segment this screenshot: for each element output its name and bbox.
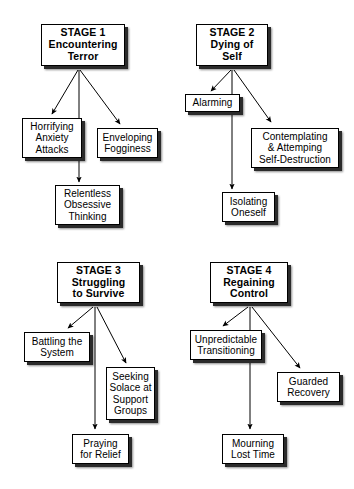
stage-4-connectors xyxy=(223,307,300,429)
stage-2-child-contemplating-attemping-self-destruction[interactable]: Contemplating & Attemping Self-Destructi… xyxy=(251,128,339,168)
stage-3-child-2-label: Praying for Relief xyxy=(73,438,128,460)
stage-3-child-seeking-solace-at-support-groups[interactable]: Seeking Solace at Support Groups xyxy=(106,367,155,420)
stage-1-header-label: STAGE 1 Encountering Terror xyxy=(42,27,124,62)
stage-1-child-horrifying-anxiety-attacks[interactable]: Horrifying Anxiety Attacks xyxy=(22,118,82,158)
stage-4-child-unpredictable-transitioning[interactable]: Unpredictable Transitioning xyxy=(190,330,262,360)
stage-1-header-box[interactable]: STAGE 1 Encountering Terror xyxy=(41,24,125,66)
stage-4-child-0-label: Unpredictable Transitioning xyxy=(191,334,261,356)
stage-4-child-mourning-lost-time[interactable]: Mourning Lost Time xyxy=(222,434,284,464)
stage-3-header-label: STAGE 3 Struggling to Survive xyxy=(58,265,139,300)
stage-2-child-1-label: Contemplating & Attemping Self-Destructi… xyxy=(252,131,338,165)
stage-2-header-box[interactable]: STAGE 2 Dying of Self xyxy=(196,24,268,66)
stage-4-header-box[interactable]: STAGE 4 Regaining Control xyxy=(210,262,288,303)
stage-4-header-label: STAGE 4 Regaining Control xyxy=(211,265,287,300)
stage-2-child-alarming[interactable]: Alarming xyxy=(185,94,240,112)
stage-2-child-2-label: Isolating Oneself xyxy=(223,196,274,218)
stage-4-child-1-label: Guarded Recovery xyxy=(278,376,339,398)
stage-2-header-label: STAGE 2 Dying of Self xyxy=(197,27,267,62)
stage-3-child-praying-for-relief[interactable]: Praying for Relief xyxy=(72,434,129,464)
stage-1-child-enveloping-fogginess[interactable]: Enveloping Fogginess xyxy=(97,128,158,158)
stage-1-child-1-label: Enveloping Fogginess xyxy=(98,132,157,154)
stage-flowchart-diagram: STAGE 1 Encountering Terror Horrifying A… xyxy=(0,0,354,489)
stage-3-child-0-label: Battling the System xyxy=(25,336,89,358)
stage-2-child-0-label: Alarming xyxy=(186,97,239,108)
connector-arrows xyxy=(0,0,354,489)
stage-4-child-guarded-recovery[interactable]: Guarded Recovery xyxy=(277,372,340,402)
stage-1-child-0-label: Horrifying Anxiety Attacks xyxy=(23,121,81,155)
stage-1-child-relentless-obsessive-thinking[interactable]: Relentless Obsessive Thinking xyxy=(55,185,120,225)
stage-3-child-battling-the-system[interactable]: Battling the System xyxy=(24,332,90,362)
stage-2-child-isolating-oneself[interactable]: Isolating Oneself xyxy=(222,192,275,222)
stage-3-child-1-label: Seeking Solace at Support Groups xyxy=(107,371,154,416)
stage-1-child-2-label: Relentless Obsessive Thinking xyxy=(56,188,119,222)
stage-3-header-box[interactable]: STAGE 3 Struggling to Survive xyxy=(57,262,140,303)
stage-4-child-2-label: Mourning Lost Time xyxy=(223,438,283,460)
